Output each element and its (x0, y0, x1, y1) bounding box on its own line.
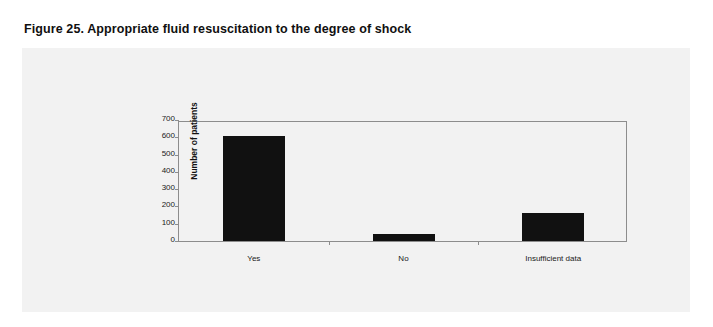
y-axis-tick-mark (175, 224, 179, 225)
figure-container: Figure 25. Appropriate fluid resuscitati… (0, 0, 713, 327)
y-axis-tick-mark (175, 155, 179, 156)
y-axis-tick-label: 200 (139, 200, 175, 209)
chart-panel: Number of patients 010020030040050060070… (22, 48, 690, 312)
x-axis-tick-mark (478, 241, 479, 245)
figure-title: Figure 25. Appropriate fluid resuscitati… (24, 22, 411, 36)
y-axis-tick-mark (175, 120, 179, 121)
x-axis-category-label: Insufficient data (478, 254, 628, 263)
y-axis-tick-label: 0 (139, 235, 175, 244)
y-axis-tick-label: 700 (139, 114, 175, 123)
y-axis-tick-mark (175, 137, 179, 138)
bar (522, 213, 584, 241)
y-axis-tick-label: 100 (139, 218, 175, 227)
plot-area: Number of patients 010020030040050060070… (178, 121, 627, 242)
y-axis-tick-label: 400 (139, 166, 175, 175)
y-axis-tick-label: 600 (139, 131, 175, 140)
y-axis-tick-mark (175, 172, 179, 173)
bar (223, 136, 285, 241)
x-axis-tick-mark (329, 241, 330, 245)
x-axis-category-label: Yes (179, 254, 329, 263)
x-axis-category-label: No (329, 254, 479, 263)
y-axis-tick-mark (175, 189, 179, 190)
y-axis-tick-mark (175, 241, 179, 242)
plot-inner: 0100200300400500600700YesNoInsufficient … (179, 122, 626, 241)
y-axis-tick-label: 300 (139, 183, 175, 192)
bar (373, 234, 435, 241)
y-axis-tick-label: 500 (139, 149, 175, 158)
y-axis-tick-mark (175, 206, 179, 207)
